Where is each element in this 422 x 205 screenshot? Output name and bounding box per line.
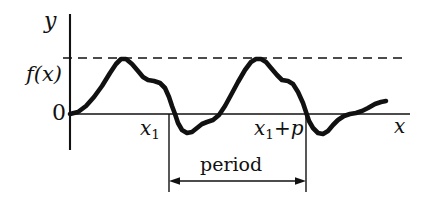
function-label: f(x) (26, 64, 62, 85)
x1-label-subscript: 1 (151, 126, 160, 142)
periodic-function-figure: y f(x) 0 x1 x1+p x period (0, 0, 422, 205)
period-label: period (200, 155, 262, 174)
x1-plus-p-label: x1+p (254, 118, 304, 141)
x1-label-base: x (140, 116, 151, 140)
origin-label: 0 (52, 102, 66, 124)
y-axis-label: y (44, 10, 56, 32)
x1p-label-base: x (254, 116, 265, 140)
function-curve (70, 59, 386, 134)
x1p-label-suffix: +p (274, 116, 304, 140)
x1-label: x1 (140, 118, 160, 141)
period-arrow (169, 177, 306, 185)
x-axis-label: x (394, 116, 405, 136)
x1p-label-subscript: 1 (265, 126, 274, 142)
